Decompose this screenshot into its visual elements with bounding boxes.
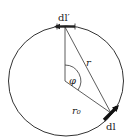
label-dl: dl: [106, 121, 116, 132]
label-r0: r₀: [72, 105, 81, 116]
label-r: r: [86, 57, 92, 68]
circle-diagram: dl′ dl r φ r₀: [0, 0, 133, 137]
element-dl-prime: [54, 24, 75, 30]
label-dl-prime: dl′: [58, 12, 71, 23]
label-phi: φ: [69, 75, 76, 86]
element-dl: [104, 105, 119, 120]
